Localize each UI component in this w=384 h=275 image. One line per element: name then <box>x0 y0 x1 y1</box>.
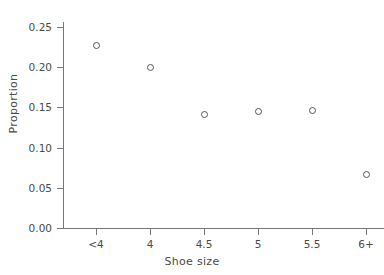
data-point <box>309 107 316 114</box>
y-axis-tick-label: 0.00 <box>29 223 52 234</box>
x-axis-tick <box>258 229 259 235</box>
scatter-plot-figure: 0.000.050.100.150.200.25 <444.555.56+ Pr… <box>0 0 384 275</box>
y-axis-tick-label: 0.15 <box>29 102 52 113</box>
y-axis-label: Proportion <box>7 49 20 159</box>
y-axis-tick <box>57 228 63 229</box>
x-axis-tick-label: 4 <box>147 239 154 250</box>
y-axis-tick-label: 0.05 <box>29 183 52 194</box>
y-axis-tick <box>57 107 63 108</box>
plot-area <box>64 27 384 228</box>
x-axis-tick <box>204 229 205 235</box>
y-axis-tick <box>57 188 63 189</box>
data-point <box>255 108 262 115</box>
cropped-title-fragment <box>64 0 364 3</box>
y-axis-tick <box>57 27 63 28</box>
y-axis-tick-label: 0.20 <box>29 62 52 73</box>
x-axis-tick <box>312 229 313 235</box>
x-axis-tick <box>96 229 97 235</box>
x-axis-tick-label: 5.5 <box>304 239 321 250</box>
x-axis-tick-label: 6+ <box>358 239 373 250</box>
x-axis-tick-label: <4 <box>88 239 103 250</box>
y-axis-tick-label: 0.25 <box>29 22 52 33</box>
x-axis-tick <box>366 229 367 235</box>
data-point <box>201 111 208 118</box>
x-axis-tick-label: 5 <box>255 239 262 250</box>
x-axis-tick <box>150 229 151 235</box>
x-axis-label: Shoe size <box>0 255 384 268</box>
x-axis-line <box>63 228 384 229</box>
y-axis-tick-label: 0.10 <box>29 143 52 154</box>
y-axis-tick <box>57 148 63 149</box>
y-axis-line <box>63 22 64 229</box>
x-axis-tick-label: 4.5 <box>196 239 213 250</box>
y-axis-tick <box>57 67 63 68</box>
